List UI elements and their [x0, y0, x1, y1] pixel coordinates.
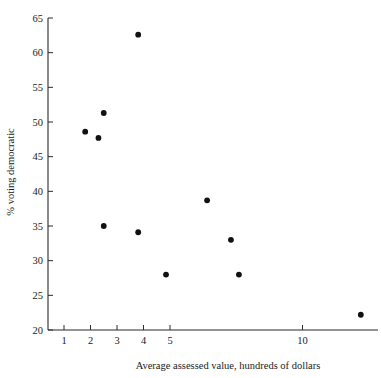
y-tick-label: 45: [33, 151, 44, 162]
y-tick-label: 20: [33, 325, 44, 336]
x-tick-label: 1: [61, 335, 66, 346]
y-tick-group: 20253035404550556065: [33, 13, 54, 336]
data-point: [228, 237, 234, 243]
data-point: [101, 223, 107, 229]
y-tick-label: 50: [33, 117, 44, 128]
y-tick-label: 30: [33, 255, 44, 266]
scatter-plot-figure: 20253035404550556065 1234510 Average ass…: [0, 0, 381, 378]
data-point: [163, 272, 169, 278]
y-tick-label: 40: [33, 186, 44, 197]
data-point: [101, 110, 107, 116]
y-tick-label: 35: [33, 221, 44, 232]
plot-canvas: 20253035404550556065 1234510 Average ass…: [0, 0, 381, 378]
y-tick-label: 25: [33, 290, 44, 301]
x-tick-label: 3: [114, 335, 119, 346]
data-point: [236, 272, 242, 278]
x-axis: 1234510: [48, 325, 378, 346]
data-point: [96, 135, 102, 141]
data-point: [135, 32, 141, 38]
x-tick-label: 5: [167, 335, 172, 346]
x-axis-title: Average assessed value, hundreds of doll…: [136, 360, 321, 371]
y-tick-label: 65: [33, 13, 44, 24]
x-tick-label: 10: [297, 335, 308, 346]
x-tick-group: 1234510: [61, 325, 307, 346]
y-axis: 20253035404550556065: [33, 13, 54, 336]
data-point: [204, 197, 210, 203]
data-point: [358, 312, 364, 318]
y-tick-label: 55: [33, 82, 44, 93]
y-tick-label: 60: [33, 47, 44, 58]
x-tick-label: 4: [141, 335, 147, 346]
data-point: [135, 229, 141, 235]
data-point: [82, 129, 88, 135]
x-tick-label: 2: [88, 335, 93, 346]
data-point-group: [82, 32, 363, 318]
y-axis-title: % voting democratic: [5, 128, 16, 216]
